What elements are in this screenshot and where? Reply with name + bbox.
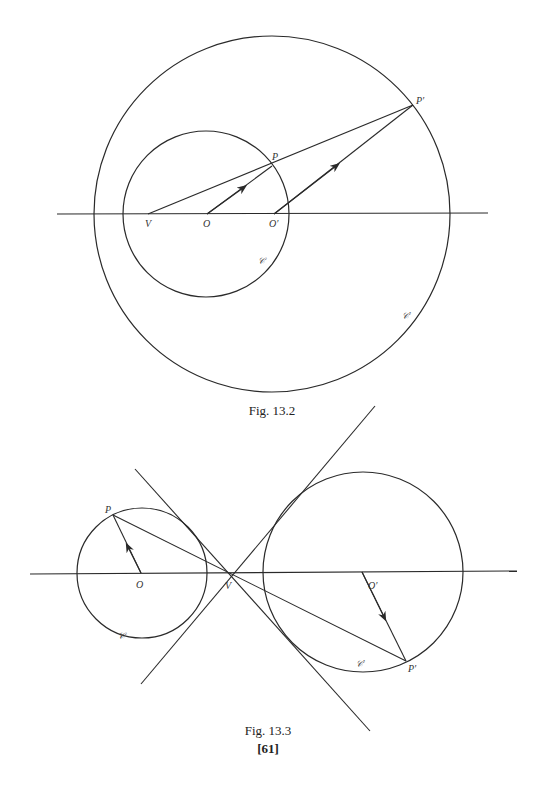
label-o: O (203, 218, 210, 229)
label-p-prime: P′ (415, 95, 425, 106)
label-o-prime: O′ (269, 218, 279, 229)
tangent-line-ascending (141, 406, 375, 684)
label-v: V (145, 218, 153, 229)
label-p: P (271, 151, 278, 162)
arrow-o-to-p (207, 188, 243, 214)
arrow-o-prime-to-p-prime (274, 166, 336, 214)
tangent-line-descending (135, 469, 370, 731)
figure-13-3: P O V O′ P′ 𝒞 𝒞′ Fig. 13.3 (30, 406, 517, 738)
arrow-o-to-p (128, 547, 141, 573)
label-v: V (225, 580, 233, 591)
line-v-to-p-prime (148, 105, 413, 214)
axis-line (30, 571, 517, 574)
label-c: 𝒞 (258, 256, 267, 266)
label-o: O (136, 579, 143, 590)
arrow-o-prime-to-p-prime (362, 572, 384, 617)
figure-13-2: V O O′ P P′ 𝒞 𝒞′ Fig. 13.2 (57, 36, 488, 418)
axis-line (57, 213, 488, 214)
label-c-prime: 𝒞′ (356, 659, 365, 669)
label-p-prime: P′ (407, 663, 417, 674)
page-number: [61] (257, 741, 279, 756)
caption-fig-13-3: Fig. 13.3 (245, 723, 292, 738)
caption-fig-13-2: Fig. 13.2 (249, 403, 296, 418)
label-o-prime: O′ (368, 580, 378, 591)
line-p-to-p-prime (113, 515, 406, 661)
label-p: P (104, 504, 111, 515)
page-diagrams: V O O′ P P′ 𝒞 𝒞′ Fig. 13.2 P O V O′ P′ 𝒞… (0, 0, 541, 798)
label-c-prime: 𝒞′ (402, 311, 411, 321)
